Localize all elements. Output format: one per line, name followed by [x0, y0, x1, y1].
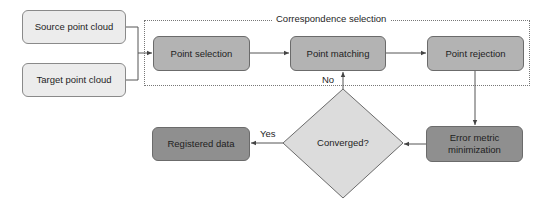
registered-data-node: Registered data: [152, 127, 250, 161]
point-matching-label: Point matching: [307, 48, 370, 60]
target-point-cloud-label: Target point cloud: [37, 74, 112, 86]
no-edge-label: No: [322, 74, 334, 85]
point-rejection-node: Point rejection: [427, 36, 524, 71]
error-metric-minimization-label: Error metric minimization: [441, 132, 508, 156]
point-selection-node: Point selection: [153, 36, 250, 71]
registered-data-label: Registered data: [167, 138, 234, 150]
source-point-cloud-node: Source point cloud: [22, 10, 126, 44]
target-point-cloud-node: Target point cloud: [22, 63, 126, 97]
yes-edge-label: Yes: [260, 128, 276, 139]
converged-label: Converged?: [303, 137, 383, 148]
point-matching-node: Point matching: [290, 36, 386, 71]
point-selection-label: Point selection: [171, 48, 233, 60]
point-rejection-label: Point rejection: [445, 48, 505, 60]
source-point-cloud-label: Source point cloud: [35, 21, 114, 33]
error-metric-minimization-node: Error metric minimization: [426, 126, 523, 162]
